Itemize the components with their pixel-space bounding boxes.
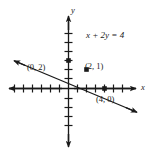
coordinate-plane-svg bbox=[0, 0, 151, 149]
point-label-2-1: (2, 1) bbox=[85, 62, 103, 71]
point-4-0 bbox=[102, 86, 107, 91]
x-axis-label: x bbox=[141, 83, 145, 92]
point-0-2 bbox=[66, 58, 71, 63]
point-label-4-0: (4, 0) bbox=[96, 95, 114, 104]
graph-figure: x + 2y = 4 y x (0, 2) (2, 1) (4, 0) bbox=[0, 0, 151, 149]
equation-annotation: x + 2y = 4 bbox=[86, 31, 124, 40]
point-label-0-2: (0, 2) bbox=[27, 63, 45, 72]
y-axis-label: y bbox=[71, 6, 75, 15]
